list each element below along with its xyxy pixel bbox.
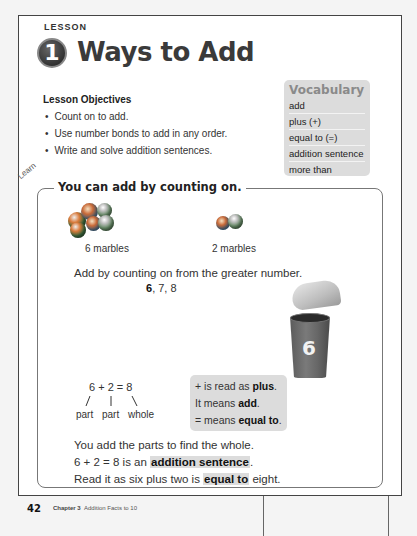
marbles-caption: 6 marbles (85, 243, 129, 254)
divider (388, 496, 389, 536)
vocabulary-item: equal to (=) (289, 130, 365, 146)
objective-item: Count on to add. (43, 108, 227, 125)
lesson-number-badge: 1 (37, 38, 67, 68)
info-line: It means add. (195, 395, 282, 412)
vocabulary-item: addition sentence (289, 146, 365, 162)
page-number: 42 (27, 503, 41, 514)
vocabulary-item: add (289, 98, 365, 114)
summary-line: Read it as six plus two is equal to eigh… (74, 473, 281, 485)
bond-label-part: part (102, 409, 119, 420)
bond-lines (70, 396, 150, 408)
lesson-number: 1 (44, 42, 59, 64)
vocabulary-title: Vocabulary (289, 83, 365, 98)
page-title: Ways to Add (77, 37, 254, 67)
cup-rim (290, 313, 330, 323)
chapter-label: Chapter 3 (53, 505, 81, 511)
chapter-title: Addition Facts to 10 (84, 505, 137, 511)
vocabulary-item: more than (289, 162, 365, 177)
summary-line: 6 + 2 = 8 is an addition sentence. (74, 456, 253, 468)
vocabulary-item: plus (+) (289, 114, 365, 130)
vocabulary-box: Vocabulary add plus (+) equal to (=) add… (284, 80, 370, 176)
bond-label-whole: whole (128, 409, 154, 420)
lesson-label: LESSON (44, 22, 87, 32)
objective-item: Use number bonds to add in any order. (43, 125, 227, 142)
summary-line: You add the parts to find the whole. (74, 439, 254, 451)
bond-label-part: part (76, 409, 93, 420)
cup-number: 6 (302, 336, 316, 360)
objectives-list: Count on to add. Use number bonds to add… (43, 108, 227, 159)
divider (263, 496, 264, 536)
objective-item: Write and solve addition sentences. (43, 142, 227, 159)
equation: 6 + 2 = 8 (89, 381, 132, 393)
info-line: + is read as plus. (195, 378, 282, 395)
info-box: + is read as plus. It means add. = means… (190, 375, 287, 431)
learn-heading: You can add by counting on. (54, 180, 246, 194)
marbles-caption: 2 marbles (212, 243, 256, 254)
counting-sequence: 6, 7, 8 (146, 282, 177, 294)
objectives-heading: Lesson Objectives (43, 94, 131, 105)
info-line: = means equal to. (195, 412, 282, 429)
instruction-text: Add by counting on from the greater numb… (74, 267, 302, 279)
